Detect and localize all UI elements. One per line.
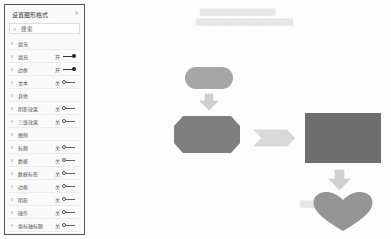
octagon-shape[interactable] xyxy=(174,116,240,153)
rectangle-shape[interactable] xyxy=(305,113,381,163)
down-arrow-shape[interactable] xyxy=(200,94,218,110)
down-arrow-shape-2[interactable] xyxy=(329,170,350,190)
rounded-rectangle-shape[interactable] xyxy=(185,67,233,89)
heart-shape[interactable] xyxy=(313,192,372,231)
chevron-arrow-shape[interactable] xyxy=(254,130,295,146)
canvas xyxy=(0,0,391,239)
